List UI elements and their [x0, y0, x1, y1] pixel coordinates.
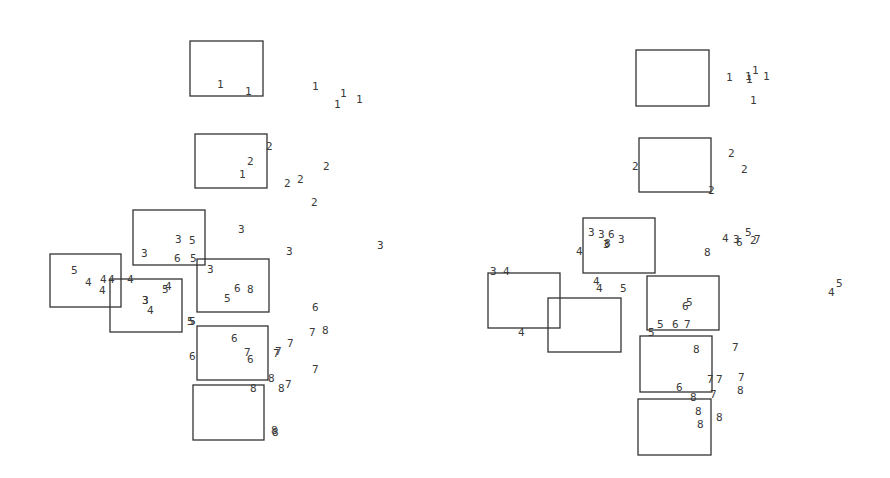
point-label-2: 2 — [247, 155, 254, 168]
point-label-8: 8 — [272, 426, 279, 439]
point-label-2: 2 — [297, 173, 304, 186]
point-label-8: 8 — [604, 237, 611, 250]
point-label-7: 7 — [716, 373, 723, 386]
point-label-7: 7 — [312, 363, 319, 376]
point-label-5: 5 — [189, 315, 196, 328]
cluster-box-2 — [195, 134, 267, 188]
point-label-8: 8 — [716, 411, 723, 424]
point-label-7: 7 — [309, 326, 316, 339]
point-label-1: 1 — [726, 71, 733, 84]
point-label-6: 6 — [174, 252, 181, 265]
point-label-5: 5 — [162, 283, 169, 296]
point-label-3: 3 — [490, 265, 497, 278]
point-label-2: 2 — [632, 160, 639, 173]
cluster-box-5 — [548, 298, 621, 352]
point-label-8: 8 — [268, 372, 275, 385]
cluster-box-2 — [639, 138, 711, 192]
point-label-2: 2 — [311, 196, 318, 209]
point-label-8: 8 — [737, 384, 744, 397]
left-panel: 1111111222222333333334444444555555556666… — [50, 41, 384, 440]
point-label-6: 6 — [231, 332, 238, 345]
cluster-box-4 — [488, 273, 560, 328]
point-label-4: 4 — [147, 304, 154, 317]
point-label-1: 1 — [746, 73, 753, 86]
point-label-4: 4 — [108, 273, 115, 286]
point-label-1: 1 — [356, 93, 363, 106]
point-label-3: 3 — [377, 239, 384, 252]
point-label-6: 6 — [234, 282, 241, 295]
point-label-4: 4 — [596, 282, 603, 295]
point-label-5: 5 — [745, 226, 752, 239]
point-label-3: 3 — [207, 263, 214, 276]
point-label-7: 7 — [287, 337, 294, 350]
point-label-5: 5 — [71, 264, 78, 277]
point-label-6: 6 — [672, 318, 679, 331]
point-label-8: 8 — [693, 343, 700, 356]
point-label-5: 5 — [836, 277, 843, 290]
point-label-4: 4 — [518, 326, 525, 339]
point-label-5: 5 — [224, 292, 231, 305]
point-label-6: 6 — [676, 381, 683, 394]
point-label-7: 7 — [754, 233, 761, 246]
point-label-8: 8 — [278, 382, 285, 395]
point-label-1: 1 — [340, 87, 347, 100]
point-label-1: 1 — [217, 78, 224, 91]
point-label-6: 6 — [189, 350, 196, 363]
point-label-6: 6 — [682, 300, 689, 313]
point-label-6: 6 — [312, 301, 319, 314]
point-label-1: 1 — [750, 94, 757, 107]
point-label-8: 8 — [322, 324, 329, 337]
point-label-1: 1 — [312, 80, 319, 93]
point-label-2: 2 — [266, 140, 273, 153]
point-label-3: 3 — [618, 233, 625, 246]
point-label-4: 4 — [576, 245, 583, 258]
point-label-8: 8 — [695, 405, 702, 418]
point-label-7: 7 — [244, 346, 251, 359]
point-label-3: 3 — [238, 223, 245, 236]
point-label-2: 2 — [728, 147, 735, 160]
point-label-7: 7 — [707, 373, 714, 386]
point-label-2: 2 — [284, 177, 291, 190]
point-label-3: 3 — [141, 247, 148, 260]
point-label-5: 5 — [657, 318, 664, 331]
point-label-7: 7 — [738, 371, 745, 384]
point-label-4: 4 — [99, 284, 106, 297]
point-label-8: 8 — [250, 382, 257, 395]
point-label-8: 8 — [690, 391, 697, 404]
cluster-diagram: 1111111222222333333334444444555555556666… — [0, 0, 890, 478]
point-label-4: 4 — [127, 273, 134, 286]
point-label-1: 1 — [752, 64, 759, 77]
point-label-8: 8 — [697, 418, 704, 431]
point-label-8: 8 — [247, 283, 254, 296]
point-label-6: 6 — [736, 236, 743, 249]
point-label-7: 7 — [732, 341, 739, 354]
point-label-4: 4 — [828, 286, 835, 299]
point-label-3: 3 — [175, 233, 182, 246]
point-label-8: 8 — [704, 246, 711, 259]
right-panel: 1111112222233333344444445555556666677777… — [488, 50, 843, 455]
point-label-3: 3 — [588, 226, 595, 239]
point-label-5: 5 — [620, 282, 627, 295]
cluster-box-1 — [190, 41, 263, 96]
point-label-4: 4 — [503, 265, 510, 278]
point-label-7: 7 — [275, 345, 282, 358]
point-label-2: 2 — [741, 163, 748, 176]
point-label-2: 2 — [708, 184, 715, 197]
point-label-7: 7 — [684, 318, 691, 331]
point-label-1: 1 — [245, 85, 252, 98]
point-label-3: 3 — [286, 245, 293, 258]
point-label-4: 4 — [85, 276, 92, 289]
point-label-1: 1 — [763, 70, 770, 83]
point-label-7: 7 — [710, 388, 717, 401]
point-label-5: 5 — [189, 234, 196, 247]
point-label-2: 2 — [323, 160, 330, 173]
point-label-5: 5 — [190, 252, 197, 265]
point-label-4: 4 — [722, 232, 729, 245]
point-label-5: 5 — [648, 326, 655, 339]
point-label-7: 7 — [285, 378, 292, 391]
point-label-1: 1 — [239, 168, 246, 181]
cluster-box-1 — [636, 50, 709, 106]
